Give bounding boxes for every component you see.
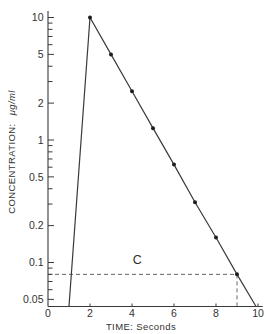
data-point-marker [88,16,92,20]
chart-canvas: 105210.50.20.10.05 0246810 C TIME: Secon… [0,0,267,334]
concentration-line [69,18,256,307]
x-axis-ticks: 0246810 [45,304,264,319]
y-tick-label: 0.2 [29,219,44,231]
data-point-marker [235,272,239,276]
x-tick-label: 8 [213,307,219,319]
y-tick-label: 5 [38,48,44,60]
data-series [69,18,256,307]
x-tick-label: 2 [87,307,93,319]
data-point-marker [130,89,134,93]
data-point-marker [214,235,218,239]
annotations: C [133,253,142,267]
x-tick-label: 10 [252,307,264,319]
data-point-marker [172,163,176,167]
y-tick-label: 2 [38,97,44,109]
y-axis-ticks: 105210.50.20.10.05 [23,11,54,305]
data-point-marker [109,52,113,56]
y-tick-label: 0.1 [29,256,44,268]
y-tick-label: 0.5 [29,171,44,183]
concentration-time-chart: 105210.50.20.10.05 0246810 C TIME: Secon… [0,0,267,334]
data-point-marker [151,126,155,130]
y-axis-title-text: CONCENTRATION: [6,123,17,213]
reference-lines [48,274,237,306]
y-tick-label: 10 [32,11,44,23]
x-tick-label: 4 [129,307,135,319]
y-axis-title-unit: μg/ml [6,90,17,117]
y-axis-title: CONCENTRATION: μg/ml [6,90,17,214]
x-axis-title: TIME: Seconds [106,321,176,332]
x-tick-label: 0 [45,307,51,319]
data-point-marker [193,200,197,204]
y-tick-label: 1 [38,134,44,146]
y-tick-label: 0.05 [23,293,44,305]
x-tick-label: 6 [171,307,177,319]
annotation-label: C [133,253,142,267]
